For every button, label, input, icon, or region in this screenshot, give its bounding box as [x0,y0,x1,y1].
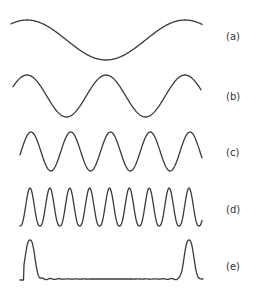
waveform-c [20,132,202,171]
waveform-b [13,75,201,117]
label-b: (b) [226,91,240,103]
label-e: (e) [226,261,240,273]
waveform-d [20,188,202,226]
label-d: (d) [226,204,240,216]
waveform-e [20,240,203,280]
label-c: (c) [226,147,239,159]
waveform-a [11,20,202,60]
waveform-figure [0,0,255,294]
label-a: (a) [226,31,240,43]
